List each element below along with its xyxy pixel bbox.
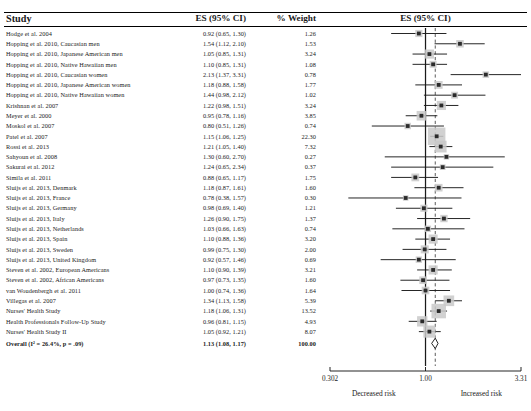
row-es-value: 1.34 (1.13, 1.58) — [203, 297, 246, 305]
row-study-label: Sluijs et al. 2013, France — [6, 194, 70, 201]
row-es-value: 1.21 (1.05, 1.40) — [203, 143, 246, 151]
point-estimate-marker — [423, 247, 427, 251]
point-estimate-marker — [431, 237, 435, 241]
row-weight-value: 0.74 — [305, 122, 317, 129]
forest-row: Hopping et al. 2010, Caucasian women2.13… — [6, 71, 521, 79]
forest-row: Sluijs et al. 2013, Spain1.10 (0.88, 1.3… — [6, 235, 450, 244]
point-estimate-marker — [435, 134, 439, 138]
overall-study-label: Overall (I² = 26.4%, p = .09) — [6, 340, 84, 348]
point-estimate-marker — [445, 155, 449, 159]
row-study-label: Sluijs et al. 2013, United Kingdom — [6, 256, 96, 263]
row-study-label: Sluijs et al. 2013, Sweden — [6, 246, 74, 253]
row-study-label: Health Professionals Follow-Up Study — [6, 318, 106, 325]
forest-row: Villegas et al. 20071.34 (1.13, 1.58)5.3… — [6, 295, 462, 306]
row-weight-value: 1.37 — [305, 215, 316, 222]
forest-row: Hopping et al. 2010, Native Hawaiian wom… — [6, 91, 485, 99]
forest-row: Sakurai et al. 20121.24 (0.65, 2.34)0.37 — [6, 163, 493, 171]
point-estimate-marker — [417, 258, 421, 262]
row-es-value: 2.13 (1.37, 3.31) — [203, 71, 246, 79]
row-es-value: 1.18 (0.88, 1.58) — [203, 81, 246, 89]
point-estimate-marker — [428, 52, 432, 56]
x-axis-tick-label: 0.302 — [322, 375, 339, 383]
point-estimate-marker — [484, 73, 488, 77]
row-study-label: Simila et al. 2011 — [6, 174, 51, 181]
row-study-label: Nurses' Health Study II — [6, 328, 66, 335]
decreased-risk-caption: Decreased risk — [352, 389, 396, 398]
point-estimate-marker — [424, 289, 428, 293]
forest-row: Sluijs et al. 2013, Sweden0.99 (0.75, 1.… — [6, 245, 446, 253]
row-weight-value: 1.08 — [305, 61, 316, 68]
point-estimate-marker — [420, 319, 424, 323]
row-es-value: 1.10 (0.85, 1.31) — [203, 61, 246, 69]
row-es-value: 1.10 (0.90, 1.39) — [203, 266, 246, 274]
row-study-label: Nurses' Health Study — [6, 307, 61, 314]
forest-row: Steven et al. 2002, African Americans0.9… — [6, 276, 449, 284]
point-estimate-marker — [413, 176, 417, 180]
row-study-label: Hopping et al. 2010, Native Hawaiian wom… — [6, 91, 125, 98]
point-estimate-marker — [406, 124, 410, 128]
row-es-value: 0.99 (0.75, 1.30) — [203, 246, 246, 254]
row-weight-value: 3.20 — [305, 235, 316, 242]
row-weight-value: 1.26 — [305, 30, 316, 37]
forest-row: Hopping et al. 2010, Japanese American m… — [6, 49, 447, 58]
row-study-label: Meyer et al. 2000 — [6, 112, 51, 119]
forest-row: Rossi et al. 20131.21 (1.05, 1.40)7.32 — [6, 141, 452, 153]
row-weight-value: 0.78 — [305, 71, 316, 78]
forest-row: Hopping et al. 2010, Japanese American w… — [6, 81, 462, 89]
forest-plot: StudyES (95% CI)% WeightES (95% CI)Hodge… — [0, 0, 531, 411]
row-study-label: Steven et al. 2002, European Americans — [6, 266, 110, 273]
row-study-label: Moskol et al. 2007 — [6, 122, 54, 129]
row-es-value: 0.97 (0.73, 1.35) — [203, 276, 246, 284]
row-study-label: Sahyoun et al. 2008 — [6, 153, 57, 160]
row-study-label: Hopping et al. 2010, Caucasian men — [6, 40, 100, 47]
row-study-label: Villegas et al. 2007 — [6, 297, 56, 304]
row-weight-value: 1.53 — [305, 40, 316, 47]
row-weight-value: 4.93 — [305, 318, 316, 325]
row-study-label: Sluijs et al. 2013, Netherlands — [6, 225, 84, 232]
forest-row: Nurses' Health Study1.18 (1.06, 1.31)13.… — [6, 304, 447, 319]
row-weight-value: 3.21 — [305, 266, 316, 273]
row-study-label: Sluijs et al. 2013, Germany — [6, 204, 77, 211]
point-estimate-marker — [439, 145, 443, 149]
row-weight-value: 1.60 — [305, 184, 316, 191]
point-estimate-marker — [431, 268, 435, 272]
forest-row: Krishnan et al. 20071.22 (0.98, 1.51)3.2… — [6, 101, 458, 110]
row-study-label: Sluijs et al. 2013, Spain — [6, 235, 68, 242]
row-es-value: 1.03 (0.66, 1.63) — [203, 225, 246, 233]
forest-row: Simila et al. 20110.88 (0.65, 1.17)1.75 — [6, 174, 438, 182]
row-weight-value: 3.85 — [305, 112, 316, 119]
row-weight-value: 7.32 — [305, 143, 316, 150]
x-axis-tick-label: 1.00 — [419, 375, 432, 383]
row-es-value: 1.05 (0.92, 1.21) — [203, 328, 246, 336]
forest-row: Sluijs et al. 2013, Denmark1.18 (0.87, 1… — [6, 184, 464, 192]
point-estimate-marker — [439, 104, 443, 108]
forest-row: Hopping et al. 2010, Native Hawaiian men… — [6, 61, 447, 69]
row-study-label: Sluijs et al. 2013, Denmark — [6, 184, 77, 191]
row-es-value: 0.98 (0.69, 1.40) — [203, 204, 246, 212]
forest-row: Health Professionals Follow-Up Study0.96… — [6, 316, 437, 326]
row-weight-value: 2.00 — [305, 246, 316, 253]
row-study-label: Patel et al. 2007 — [6, 133, 48, 140]
point-estimate-marker — [437, 309, 441, 313]
row-weight-value: 0.30 — [305, 194, 316, 201]
forest-row: Sluijs et al. 2013, United Kingdom0.92 (… — [6, 256, 456, 264]
row-es-value: 1.26 (0.90, 1.75) — [203, 215, 246, 223]
increased-risk-caption: Increased risk — [461, 389, 503, 398]
point-estimate-marker — [417, 32, 421, 36]
point-estimate-marker — [422, 206, 426, 210]
row-study-label: Sakurai et al. 2012 — [6, 163, 54, 170]
point-estimate-marker — [447, 299, 451, 303]
point-estimate-marker — [442, 217, 446, 221]
row-es-value: 1.05 (0.85, 1.31) — [203, 50, 246, 58]
point-estimate-marker — [428, 330, 432, 334]
row-es-value: 1.00 (0.74, 1.36) — [203, 287, 246, 295]
row-study-label: Hopping et al. 2010, Native Hawaiian men — [6, 61, 117, 68]
forest-row: Sahyoun et al. 20081.30 (0.60, 2.70)0.27 — [6, 153, 505, 161]
forest-row: Sluijs et al. 2013, Italy1.26 (0.90, 1.7… — [6, 215, 470, 223]
overall-es-value: 1.13 (1.08, 1.17) — [203, 340, 246, 348]
row-weight-value: 1.75 — [305, 174, 316, 181]
point-estimate-marker — [431, 62, 435, 66]
point-estimate-marker — [453, 93, 457, 97]
row-es-value: 1.10 (0.88, 1.36) — [203, 235, 246, 243]
point-estimate-marker — [426, 227, 430, 231]
